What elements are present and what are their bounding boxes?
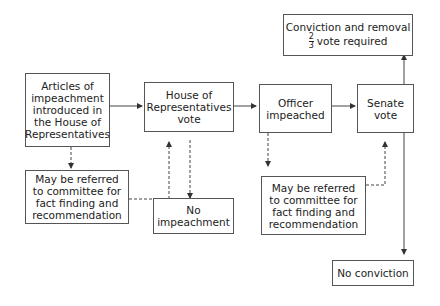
- node-committee-senate: May be referred to committee for fact fi…: [261, 176, 366, 235]
- conviction-title: Conviction and removal: [286, 21, 411, 33]
- node-no-impeachment: No impeachment: [153, 198, 234, 234]
- two-thirds-fraction: 23: [309, 33, 314, 50]
- node-senate-vote: Senate vote: [357, 84, 414, 133]
- node-conviction: Conviction and removal 23 vote required: [283, 14, 413, 56]
- node-no-conviction: No conviction: [332, 260, 414, 286]
- node-committee-house: May be referred to committee for fact fi…: [25, 170, 129, 224]
- node-house-vote: House of Representatives vote: [144, 82, 234, 132]
- node-officer-impeached: Officer impeached: [259, 84, 332, 133]
- conviction-subtitle: 23 vote required: [309, 33, 388, 50]
- node-articles: Articles of impeachment introduced in th…: [25, 73, 110, 147]
